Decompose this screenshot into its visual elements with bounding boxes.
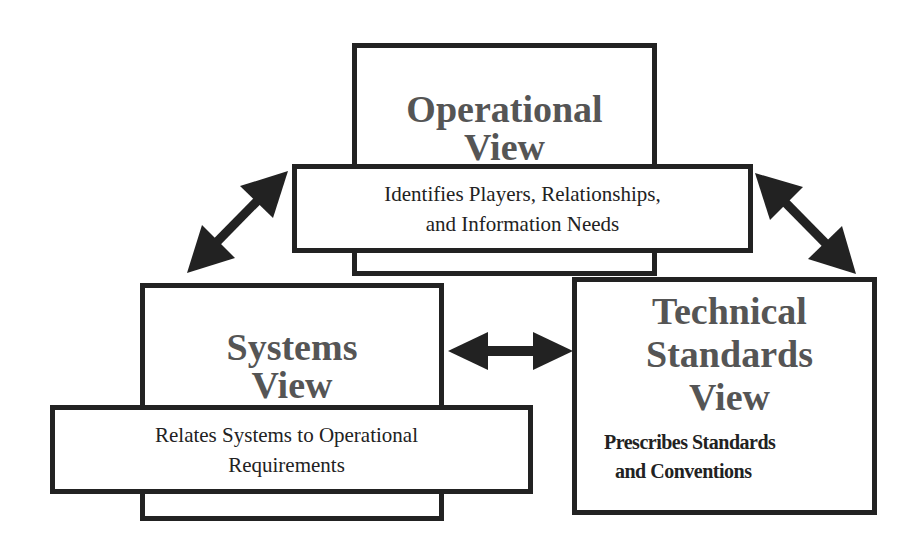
technical-description: Prescribes Standards and Conventions	[604, 428, 775, 486]
systems-view-title: Systems View	[145, 328, 439, 404]
desc-line: Prescribes Standards	[604, 428, 775, 457]
operational-description: Identifies Players, Relationships, and I…	[297, 179, 748, 239]
arrow-operational-systems	[187, 171, 288, 273]
desc-line: Relates Systems to Operational	[45, 420, 528, 450]
title-line: Standards	[587, 333, 872, 376]
title-line: Technical	[587, 290, 872, 333]
title-line: Systems	[145, 328, 439, 366]
title-line: View	[357, 128, 652, 166]
desc-line: and Conventions	[604, 457, 775, 486]
arrow-systems-technical	[448, 332, 573, 370]
desc-line: and Information Needs	[297, 209, 748, 239]
technical-standards-view-box: Technical Standards View Prescribes Stan…	[572, 277, 877, 515]
operational-description-box: Identifies Players, Relationships, and I…	[292, 164, 753, 253]
desc-line: Identifies Players, Relationships,	[297, 179, 748, 209]
operational-view-title: Operational View	[357, 90, 652, 166]
systems-description-box: Relates Systems to Operational Requireme…	[50, 405, 533, 494]
technical-standards-view-title: Technical Standards View	[587, 290, 872, 419]
title-line: View	[587, 376, 872, 419]
desc-line: Requirements	[45, 450, 528, 480]
systems-description: Relates Systems to Operational Requireme…	[45, 420, 528, 480]
title-line: Operational	[357, 90, 652, 128]
arrow-operational-technical	[755, 173, 856, 274]
title-line: View	[145, 366, 439, 404]
